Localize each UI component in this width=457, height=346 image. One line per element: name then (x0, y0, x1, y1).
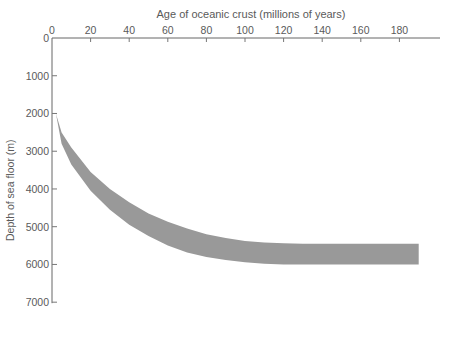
y-tick-label: 7000 (26, 296, 50, 308)
x-axis-ticks: 020406080100120140160180 (49, 24, 408, 42)
y-tick-label: 3000 (26, 145, 50, 157)
y-tick-label: 5000 (26, 221, 50, 233)
x-tick-label: 120 (275, 24, 293, 36)
x-tick-label: 140 (313, 24, 331, 36)
depth-band (56, 114, 419, 265)
y-tick-label: 2000 (26, 107, 50, 119)
y-tick-label: 4000 (26, 183, 50, 195)
chart-plot: 020406080100120140160180 010002000300040… (0, 0, 457, 346)
y-tick-label: 6000 (26, 258, 50, 270)
y-tick-label: 0 (43, 32, 49, 44)
x-tick-label: 180 (391, 24, 409, 36)
x-tick-label: 40 (123, 24, 135, 36)
x-tick-label: 60 (162, 24, 174, 36)
x-tick-label: 80 (201, 24, 213, 36)
x-tick-label: 0 (49, 24, 55, 36)
x-tick-label: 100 (236, 24, 254, 36)
y-tick-label: 1000 (26, 70, 50, 82)
x-tick-label: 160 (352, 24, 370, 36)
x-tick-label: 20 (85, 24, 97, 36)
